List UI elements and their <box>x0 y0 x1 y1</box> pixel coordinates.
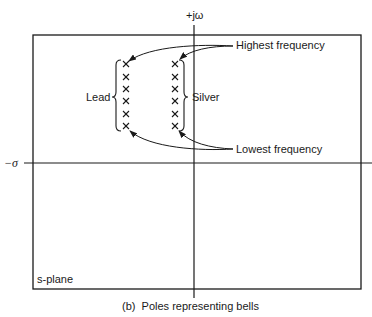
highest-frequency-label: Highest frequency <box>236 40 325 51</box>
figure-caption: (b) Poles representing bells <box>122 301 259 312</box>
pole-marker-icon <box>172 61 178 67</box>
pole-marker-icon <box>172 74 178 80</box>
pole-marker-icon <box>172 86 178 92</box>
pole-marker-icon <box>172 111 178 117</box>
silver-brace <box>179 60 188 131</box>
plane-frame <box>33 35 361 289</box>
pole-marker-icon <box>123 86 129 92</box>
silver-group-label: Silver <box>192 92 220 103</box>
lead-group-label: Lead <box>86 92 110 103</box>
lowest-arrow-silver <box>179 131 233 149</box>
pole-marker-icon <box>123 61 129 67</box>
silver-poles <box>172 61 178 129</box>
pole-marker-icon <box>123 98 129 104</box>
pole-marker-icon <box>123 111 129 117</box>
s-plane-label: s-plane <box>37 274 73 285</box>
highest-arrow-silver <box>180 46 233 59</box>
pole-marker-icon <box>123 74 129 80</box>
pole-marker-icon <box>172 98 178 104</box>
lowest-frequency-label: Lowest frequency <box>236 144 322 155</box>
pole-marker-icon <box>172 123 178 129</box>
lead-brace <box>112 60 121 131</box>
pole-marker-icon <box>123 123 129 129</box>
lead-poles <box>123 61 129 129</box>
imaginary-axis-label: +jω <box>186 10 203 21</box>
real-axis-label: −σ <box>4 157 18 169</box>
